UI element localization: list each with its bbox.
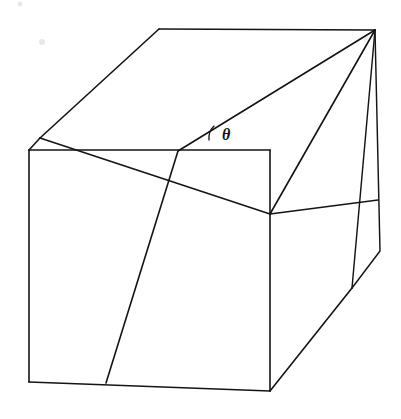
- paper-speck: [39, 39, 45, 45]
- figure-canvas: θ: [0, 0, 401, 419]
- front-face: [29, 150, 270, 391]
- top-face-back-edge: [159, 29, 375, 30]
- angle-theta-label: θ: [222, 126, 231, 143]
- box-line-drawing: θ: [0, 0, 401, 419]
- paper-speck: [18, 2, 23, 7]
